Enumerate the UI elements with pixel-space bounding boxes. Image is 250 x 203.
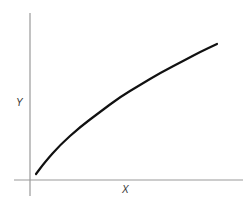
line-chart (0, 0, 250, 203)
data-curve (36, 44, 217, 174)
x-axis-label: X (122, 185, 129, 195)
y-axis-label: Y (16, 98, 23, 108)
